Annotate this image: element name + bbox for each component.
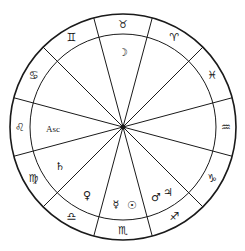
sun-planet-icon: ☉ bbox=[127, 199, 137, 212]
leo-sign-icon: ♌ bbox=[15, 121, 25, 134]
gemini-sign-icon: ♊ bbox=[67, 31, 77, 44]
pisces-sign-icon: ♓ bbox=[207, 69, 217, 82]
ascendant-label: Asc bbox=[46, 124, 60, 134]
cancer-sign-icon: ♋ bbox=[29, 69, 39, 82]
capricorn-sign-icon: ♑ bbox=[207, 172, 217, 185]
cusp-line bbox=[123, 47, 203, 127]
aries-sign-icon: ♈ bbox=[170, 31, 180, 44]
saturn-planet-icon: ♄ bbox=[55, 160, 65, 173]
taurus-sign-icon: ♉ bbox=[118, 18, 128, 31]
moon-planet-icon: ☽ bbox=[118, 46, 128, 59]
virgo-sign-icon: ♍ bbox=[29, 172, 39, 185]
planets: ☽Asc♄♀☿☉♂♃ bbox=[46, 46, 173, 212]
jupiter-planet-icon: ♃ bbox=[163, 186, 173, 199]
center-hub-icon bbox=[121, 125, 126, 130]
aquarius-sign-icon: ♒ bbox=[221, 121, 231, 134]
mercury-planet-icon: ☿ bbox=[113, 198, 120, 211]
astrological-chart-wheel: ♉♈♓♒♑♐♏♎♍♌♋♊ ☽Asc♄♀☿☉♂♃ bbox=[0, 0, 245, 251]
scorpio-sign-icon: ♏ bbox=[118, 224, 128, 237]
venus-planet-icon: ♀ bbox=[83, 189, 91, 202]
libra-sign-icon: ♎ bbox=[67, 210, 77, 223]
sagittarius-sign-icon: ♐ bbox=[170, 210, 180, 223]
cusp-line bbox=[43, 47, 123, 127]
mars-planet-icon: ♂ bbox=[151, 191, 161, 204]
